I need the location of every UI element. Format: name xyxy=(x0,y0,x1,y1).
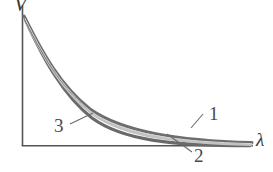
leader-line-1 xyxy=(191,114,203,128)
figure-canvas xyxy=(0,0,273,172)
curve-label-2: 2 xyxy=(194,146,204,165)
x-axis-label: λ xyxy=(256,130,264,149)
physics-decay-curve-figure: V λ 1 2 3 xyxy=(0,0,273,172)
curve-label-3: 3 xyxy=(54,116,64,135)
curve-label-1: 1 xyxy=(209,104,219,123)
leader-line-3 xyxy=(70,113,93,124)
y-axis-label: V xyxy=(14,0,27,15)
